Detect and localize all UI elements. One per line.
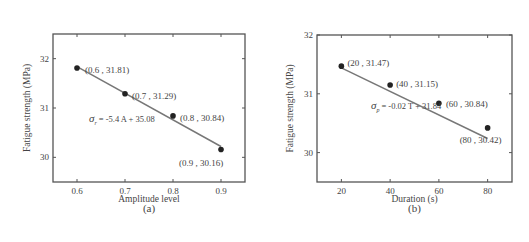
data-point (74, 65, 80, 71)
data-point-label: (0.6 , 31.81) (85, 65, 129, 75)
data-point (122, 91, 128, 97)
data-point-label: (0.9 , 30.16) (179, 158, 223, 168)
y-tick-label: 31 (304, 89, 313, 99)
data-point (387, 82, 393, 88)
y-axis-label: Fatigue strength (MPa) (285, 64, 296, 152)
y-tick-label: 30 (40, 152, 50, 162)
fit-line (77, 67, 221, 147)
data-point-label: (60 , 30.84) (446, 99, 488, 109)
x-tick-label: 0.9 (215, 186, 227, 196)
fit-equation: σp= -0.02 T + 31.84 (371, 99, 442, 113)
data-point (339, 63, 345, 69)
data-point-label: (80 , 30.42) (460, 135, 502, 145)
data-point-label: (0.7 , 31.29) (132, 91, 176, 101)
y-tick-label: 30 (304, 148, 314, 158)
data-point-label: (20 , 31.47) (347, 58, 389, 68)
data-point-label: (0.8 , 30.84) (180, 113, 224, 123)
data-point (218, 147, 224, 153)
data-point-label: (40 , 31.15) (396, 79, 438, 89)
x-tick-label: 20 (337, 186, 347, 196)
x-tick-label: 80 (483, 186, 493, 196)
data-point (485, 125, 491, 131)
fit-equation: σr= -5.4 A + 35.08 (89, 112, 155, 126)
chart-panel-b: 20406080303132(20 , 31.47)(40 , 31.15)(6… (285, 30, 512, 215)
y-tick-label: 31 (40, 103, 49, 113)
chart-panel-a: 0.60.70.80.9303132(0.6 , 31.81)(0.7 , 31… (22, 34, 245, 215)
panel-label: (a) (143, 202, 156, 215)
y-axis-label: Fatigue strength (MPa) (22, 64, 33, 152)
x-tick-label: 0.6 (71, 186, 83, 196)
y-tick-label: 32 (40, 54, 49, 64)
panel-label: (b) (408, 202, 421, 215)
data-point (170, 113, 176, 119)
y-tick-label: 32 (304, 30, 313, 40)
figure: 0.60.70.80.9303132(0.6 , 31.81)(0.7 , 31… (0, 0, 529, 242)
